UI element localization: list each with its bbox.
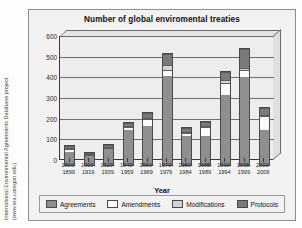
bar-segment-amendments: [201, 127, 210, 136]
bar-segment-protocols: [163, 54, 172, 65]
legend-item-modifications[interactable]: Modifications: [172, 200, 224, 208]
y-axis-tick-label: 100: [46, 136, 57, 143]
bar-segment-agreements: [260, 130, 269, 165]
bar-segment-amendments: [143, 119, 152, 126]
bar-1980-1984: [181, 127, 192, 166]
bar-group: [60, 42, 274, 166]
bar-segment-agreements: [240, 77, 249, 165]
bar-segment-protocols: [240, 49, 249, 68]
bar-segment-agreements: [163, 76, 172, 165]
y-axis-tick-label: 500: [46, 53, 57, 60]
gridline: [60, 36, 274, 37]
legend-label-amendments: Amendments: [121, 201, 160, 208]
bar-segment-amendments: [163, 70, 172, 77]
bar-segment-amendments: [221, 83, 230, 95]
x-axis-label: Year: [29, 186, 295, 195]
legend-swatch-agreements: [46, 200, 57, 208]
bar-segment-agreements: [221, 95, 230, 165]
legend-item-agreements[interactable]: Agreements: [46, 200, 96, 208]
x-tick-line-2: 2009: [251, 169, 275, 176]
bar-1985-1989: [200, 121, 211, 166]
legend-label-protocols: Protocols: [251, 201, 279, 208]
bar-1995-1999: [239, 48, 250, 166]
chart-title: Number of global enviromental treaties: [29, 15, 295, 24]
source-credit-line-2: (www.iea.uoregon.edu): [11, 163, 17, 220]
x-axis-ticks: 1800-18991900-19191920-19391940-19591960…: [59, 162, 273, 184]
bar-1940-1959: [123, 122, 134, 166]
legend-item-amendments[interactable]: Amendments: [107, 200, 160, 208]
bar-segment-agreements: [143, 126, 152, 165]
legend-swatch-modifications: [172, 200, 183, 208]
bar-segment-agreements: [201, 136, 210, 165]
plot-area: 0100200300400500600: [59, 30, 283, 160]
bar-segment-protocols: [221, 72, 230, 79]
y-axis-tick-label: 400: [46, 74, 57, 81]
x-axis-tick-label: 2000-2009: [251, 162, 275, 177]
bar-1960-1969: [142, 112, 153, 166]
chart-page: International Environmental Agreements D…: [0, 0, 302, 228]
bar-segment-amendments: [260, 116, 269, 130]
bar-1990-1994: [220, 71, 231, 166]
y-axis-tick-label: 600: [46, 33, 57, 40]
bar-segment-protocols: [260, 108, 269, 115]
legend-label-modifications: Modifications: [186, 201, 224, 208]
legend-swatch-protocols: [237, 200, 248, 208]
legend-label-agreements: Agreements: [60, 201, 96, 208]
bar-1970-1979: [162, 53, 173, 166]
plot-right-face: [273, 29, 281, 160]
bar-segment-agreements: [182, 136, 191, 165]
chart-card: Number of global enviromental treaties 0…: [28, 9, 296, 221]
plot-canvas: 0100200300400500600: [59, 36, 273, 160]
y-axis-tick-label: 300: [46, 95, 57, 102]
legend-item-protocols[interactable]: Protocols: [237, 200, 279, 208]
bar-segment-agreements: [124, 130, 133, 165]
chart-legend: AgreementsAmendmentsModificationsProtoco…: [39, 195, 285, 213]
bar-2000-2009: [259, 107, 270, 166]
x-tick-line-1: 2000-: [251, 162, 275, 169]
source-credit: International Environmental Agreements D…: [0, 0, 26, 228]
y-axis-tick-label: 200: [46, 115, 57, 122]
source-credit-line-1: International Environmental Agreements D…: [3, 77, 9, 220]
legend-swatch-amendments: [107, 200, 118, 208]
